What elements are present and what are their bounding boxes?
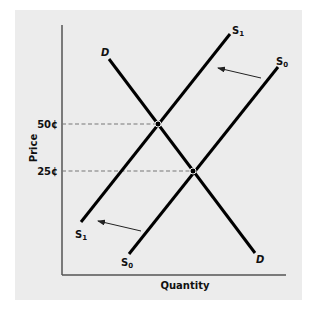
shift-arrow-upper [218, 68, 261, 78]
supply-curve-s0 [129, 67, 278, 254]
demand-label-bottom: D [256, 254, 264, 265]
demand-label-top: D [101, 47, 109, 58]
supply-curve-s1 [81, 34, 230, 222]
shift-arrow-lower [98, 221, 141, 231]
s1-label-top: S1 [232, 25, 244, 38]
tick-label-50: 50¢ [37, 119, 58, 130]
s1-label-bottom: S1 [75, 229, 87, 242]
supply-demand-chart: 50¢ 25¢ Price Quantity D D S1 S0 S1 S0 [0, 0, 317, 313]
tick-label-25: 25¢ [37, 166, 58, 177]
equilibrium-point-2 [190, 168, 196, 174]
s0-label-bottom: S0 [121, 257, 133, 270]
equilibrium-point-1 [155, 121, 161, 127]
demand-curve [109, 59, 255, 253]
x-axis-title: Quantity [161, 280, 210, 291]
y-axis-title: Price [28, 134, 39, 163]
